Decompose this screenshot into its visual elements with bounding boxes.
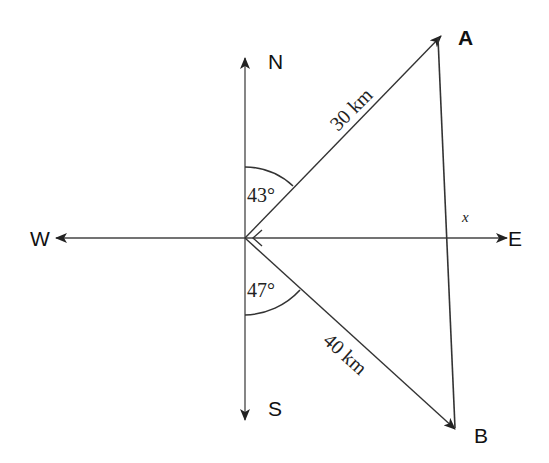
edge-oa-label: 30 km (325, 83, 377, 135)
east-label: E (508, 227, 522, 250)
bearing-diagram: N S E W A B 30 km 40 km x 43° 47° (0, 0, 549, 463)
edge-ab-label: x (461, 209, 469, 225)
point-a-label: A (458, 26, 473, 49)
north-label: N (268, 50, 283, 73)
south-label: S (268, 397, 282, 420)
point-b-label: B (474, 424, 488, 447)
angle-north-label: 43° (247, 184, 275, 206)
edge-ab (438, 38, 455, 428)
angle-south-label: 47° (247, 279, 275, 301)
west-label: W (30, 227, 50, 250)
edge-ob-label: 40 km (319, 329, 372, 379)
